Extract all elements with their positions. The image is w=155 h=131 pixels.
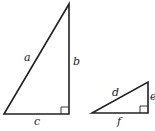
small-right-triangle: d e f: [92, 82, 155, 128]
right-angle-marker: [140, 106, 148, 113]
label-c: c: [34, 115, 40, 128]
label-b: b: [73, 55, 80, 68]
large-right-triangle: a b c: [4, 4, 80, 128]
large-triangle-outline: [4, 4, 69, 114]
label-f: f: [116, 115, 123, 128]
right-angle-marker: [61, 107, 69, 114]
label-e: e: [150, 90, 155, 103]
label-d: d: [112, 86, 119, 99]
triangles-diagram: a b c d e f: [0, 0, 155, 131]
label-a: a: [24, 51, 31, 64]
